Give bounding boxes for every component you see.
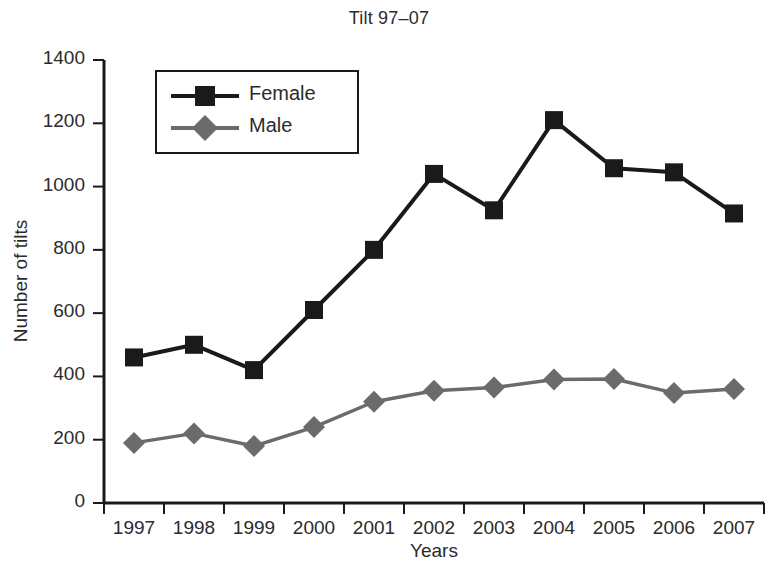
data-point-marker [723,378,745,400]
data-point-marker [725,204,743,222]
data-point-marker [123,432,145,454]
plot-area [0,0,778,579]
data-point-marker [603,368,625,390]
data-series-group [123,111,745,457]
y-tick-label: 1000 [15,174,85,196]
legend: Female Male [155,70,359,154]
x-tick-label: 2007 [699,517,769,539]
legend-swatch-female [169,80,241,112]
data-point-marker [245,361,263,379]
data-point-marker [363,391,385,413]
data-point-marker [423,380,445,402]
chart-container: Tilt 97–07 Number of tilts Years 0200400… [0,0,778,579]
data-point-marker [425,165,443,183]
y-tick-marks [93,60,104,503]
y-tick-label: 1400 [15,47,85,69]
data-point-marker [365,241,383,259]
y-tick-label: 800 [15,237,85,259]
y-tick-label: 200 [15,427,85,449]
y-tick-label: 1200 [15,110,85,132]
y-tick-label: 400 [15,363,85,385]
legend-label-female: Female [249,82,316,105]
x-tick-marks [104,503,764,514]
data-point-marker [545,111,563,129]
y-tick-label: 0 [15,490,85,512]
data-point-marker [663,382,685,404]
legend-label-male: Male [249,114,292,137]
data-point-marker [243,435,265,457]
data-point-marker [185,336,203,354]
data-point-marker [483,377,505,399]
legend-swatch-male [169,112,241,144]
legend-item-female: Female [157,80,357,112]
data-point-marker [485,201,503,219]
legend-item-male: Male [157,112,357,144]
series-line [134,120,734,370]
data-point-marker [665,163,683,181]
y-tick-label: 600 [15,300,85,322]
data-point-marker [125,348,143,366]
series-male [123,368,745,457]
data-point-marker [605,159,623,177]
data-point-marker [543,369,565,391]
data-point-marker [183,422,205,444]
data-point-marker [305,301,323,319]
data-point-marker [303,416,325,438]
